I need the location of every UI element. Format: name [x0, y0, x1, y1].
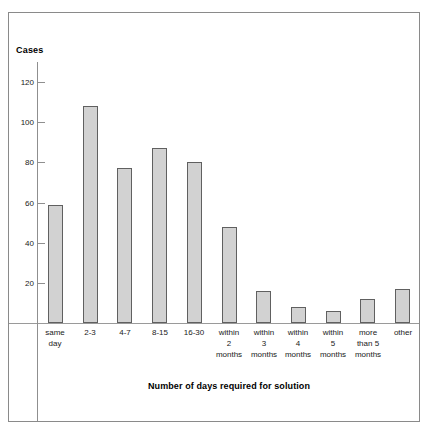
- x-axis-category-label-line: months: [313, 349, 353, 360]
- x-axis-category-label-line: 4-7: [105, 327, 145, 338]
- x-axis-category-label: 16-30: [174, 327, 214, 338]
- x-axis-category-label-line: 2-3: [70, 327, 110, 338]
- x-axis-category-label-line: months: [209, 349, 249, 360]
- bar: [395, 289, 410, 323]
- bar: [360, 299, 375, 323]
- bar: [291, 307, 306, 323]
- x-axis-category-label-line: 16-30: [174, 327, 214, 338]
- bar: [152, 148, 167, 323]
- x-axis-category-label-line: within: [313, 327, 353, 338]
- x-axis-category-label: sameday: [35, 327, 75, 349]
- x-axis-category-label-line: other: [383, 327, 423, 338]
- x-axis-category-label-line: same: [35, 327, 75, 338]
- bar: [256, 291, 271, 323]
- bar: [117, 168, 132, 323]
- x-axis-category-label: within2months: [209, 327, 249, 360]
- y-axis-tick-label: 20: [0, 279, 34, 288]
- x-axis-category-label-line: 2: [209, 338, 249, 349]
- y-axis-tick-label: 80: [0, 158, 34, 167]
- x-axis-category-label: within4months: [278, 327, 318, 360]
- y-axis-tick-label: 120: [0, 78, 34, 87]
- y-axis-title: Cases: [16, 45, 44, 55]
- x-axis-category-label-line: within: [209, 327, 249, 338]
- x-axis-category-labels: sameday2-34-78-1516-30within2monthswithi…: [38, 327, 420, 375]
- x-axis-category-label: morethan 5months: [348, 327, 388, 360]
- bar: [48, 205, 63, 323]
- x-axis-category-label-line: than 5: [348, 338, 388, 349]
- x-axis-category-label-line: more: [348, 327, 388, 338]
- y-axis-tick-label: 60: [0, 199, 34, 208]
- x-axis-title: Number of days required for solution: [38, 381, 420, 391]
- y-axis-tick-label: 40: [0, 239, 34, 248]
- plot-area: [38, 62, 420, 323]
- x-axis-category-label-line: day: [35, 338, 75, 349]
- x-axis-category-label-line: within: [278, 327, 318, 338]
- x-axis-category-label-line: months: [348, 349, 388, 360]
- bar: [326, 311, 341, 323]
- y-axis-tick-label: 100: [0, 118, 34, 127]
- bar: [222, 227, 237, 323]
- chart-figure: Cases 20406080100120 sameday2-34-78-1516…: [0, 0, 429, 432]
- bar: [83, 106, 98, 323]
- x-axis-category-label-line: 4: [278, 338, 318, 349]
- x-axis-category-label-line: months: [278, 349, 318, 360]
- x-axis-category-label: within5months: [313, 327, 353, 360]
- x-axis-category-label-line: 5: [313, 338, 353, 349]
- x-axis-category-label: other: [383, 327, 423, 338]
- bar: [187, 162, 202, 323]
- x-axis-category-label: 4-7: [105, 327, 145, 338]
- category-axis-rule: [9, 323, 419, 324]
- x-axis-category-label: 2-3: [70, 327, 110, 338]
